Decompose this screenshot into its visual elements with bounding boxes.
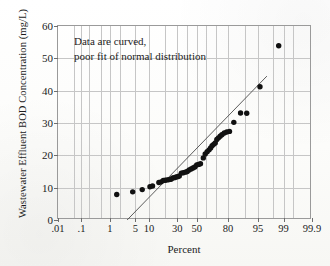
x-tick-label: 99.9 — [303, 223, 321, 234]
data-point-marker — [130, 189, 135, 194]
normal-fit-line — [127, 76, 267, 220]
data-point-marker — [198, 161, 203, 166]
x-tick-label: 1 — [107, 223, 112, 234]
data-point-marker — [231, 120, 236, 125]
data-point-marker — [257, 84, 262, 89]
data-point-marker — [114, 192, 119, 197]
x-tick-label: .01 — [51, 223, 64, 234]
y-tick-label: 30 — [42, 117, 53, 129]
y-tick-label: 40 — [42, 85, 53, 97]
x-tick-label: 50 — [191, 223, 202, 234]
x-tick-label: 10 — [144, 223, 155, 234]
y-axis-title: Wastewater Effluent BOD Concentration (m… — [17, 0, 28, 229]
x-tick-label: 30 — [172, 223, 183, 234]
data-layer — [58, 26, 312, 220]
y-tick-label: 50 — [42, 52, 53, 64]
x-tick-label: 5 — [133, 223, 138, 234]
x-tick-mark — [312, 218, 313, 222]
data-point-marker — [227, 129, 232, 134]
y-tick-label: 60 — [42, 20, 53, 32]
data-point-marker — [238, 110, 243, 115]
chart-figure: Wastewater Effluent BOD Concentration (m… — [0, 0, 330, 266]
x-tick-label: 95 — [253, 223, 264, 234]
data-point-marker — [244, 111, 249, 116]
data-point-marker — [276, 43, 281, 48]
y-tick-label: 20 — [42, 149, 53, 161]
plot-area: 0102030405060 .01.11510305080959999.9 Da… — [57, 25, 311, 219]
data-point-marker — [140, 187, 145, 192]
data-point-marker — [150, 183, 155, 188]
x-tick-label: 80 — [223, 223, 234, 234]
x-tick-label: .1 — [78, 223, 86, 234]
x-axis-title: Percent — [57, 243, 311, 255]
y-tick-label: 10 — [42, 182, 53, 194]
x-tick-label: 99 — [278, 223, 289, 234]
data-point-markers — [114, 43, 281, 197]
